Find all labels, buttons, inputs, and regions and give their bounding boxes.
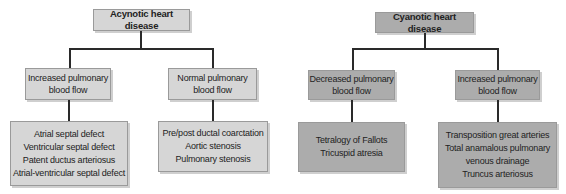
condition-item: Patent ductus arteriosus: [23, 154, 115, 167]
acyanotic-increased-flow-conditions: Atrial septal defect Ventricular septal …: [10, 121, 128, 186]
condition-item: Total anamalous pulmonary: [445, 142, 550, 155]
node-label-line: Decreased pulmonary: [309, 73, 393, 85]
cyanotic-root-node: Cyanotic heart disease: [375, 12, 474, 33]
cyanotic-decreased-flow-node: Decreased pulmonary blood flow: [308, 70, 395, 100]
node-label-line: Increased pulmonary: [457, 73, 537, 85]
node-label-line: blood flow: [478, 85, 517, 97]
acyanotic-title: Acynotic heart disease: [94, 8, 189, 32]
condition-item: Transposition great arteries: [446, 129, 550, 142]
node-label-line: Increased pulmonary: [28, 72, 108, 84]
acyanotic-normal-flow-conditions: Pre/post ductal coarctation Aortic steno…: [158, 121, 268, 172]
condition-item: Pulmonary stenosis: [176, 153, 251, 166]
cyanotic-increased-flow-conditions: Transposition great arteries Total anama…: [438, 122, 557, 188]
condition-item: Pre/post ductal coarctation: [162, 127, 263, 140]
cyanotic-title: Cyanotic heart disease: [376, 11, 473, 35]
connector: [497, 48, 499, 70]
connector: [351, 100, 353, 122]
condition-item: Ventricular septal defect: [23, 141, 114, 154]
node-label-line: blood flow: [193, 84, 232, 96]
connector: [212, 48, 214, 68]
condition-item: Aortic stenosis: [185, 140, 241, 153]
connector: [69, 48, 214, 50]
node-label-line: Normal pulmonary: [177, 72, 247, 84]
condition-item: venous drainage: [466, 155, 530, 168]
acyanotic-normal-flow-node: Normal pulmonary blood flow: [168, 68, 257, 100]
condition-item: Tricuspid atresia: [320, 147, 382, 160]
connector: [212, 100, 214, 121]
connector: [352, 48, 354, 70]
condition-item: Atrial-ventricular septal defect: [13, 167, 125, 180]
connector: [352, 48, 499, 50]
connector: [69, 48, 71, 68]
acyanotic-increased-flow-node: Increased pulmonary blood flow: [25, 68, 111, 100]
connector: [497, 100, 499, 122]
connector: [68, 100, 70, 121]
node-label-line: blood flow: [332, 85, 371, 97]
condition-item: Atrial septal defect: [34, 128, 104, 141]
condition-item: Tetralogy of Fallots: [316, 134, 388, 147]
node-label-line: blood flow: [49, 84, 88, 96]
cyanotic-decreased-flow-conditions: Tetralogy of Fallots Tricuspid atresia: [298, 122, 405, 172]
acyanotic-root-node: Acynotic heart disease: [93, 9, 190, 31]
condition-item: Truncus arteriosus: [462, 168, 533, 181]
cyanotic-increased-flow-node: Increased pulmonary blood flow: [455, 70, 540, 100]
